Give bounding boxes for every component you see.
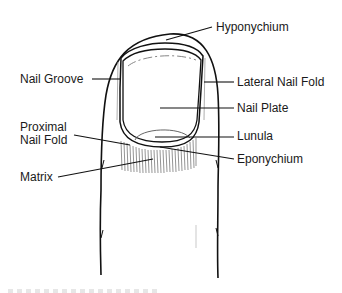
label-hyponychium: Hyponychium	[216, 21, 289, 34]
label-eponychium: Eponychium	[237, 153, 303, 166]
leader-lines	[58, 27, 234, 177]
label-matrix: Matrix	[20, 171, 53, 184]
leader-matrix	[58, 159, 153, 177]
label-lateral-nail-fold: Lateral Nail Fold	[237, 76, 324, 89]
label-nail-groove: Nail Groove	[20, 73, 83, 86]
fingernail-anatomy-diagram: Hyponychium Nail Groove Lateral Nail Fol…	[0, 0, 342, 293]
label-lunula: Lunula	[237, 130, 273, 143]
cropped-caption-text	[8, 289, 158, 293]
nail-plate	[123, 49, 201, 142]
label-proximal-nail-fold-line2: Nail Fold	[20, 134, 67, 147]
leader-eponychium	[160, 147, 234, 159]
label-nail-plate: Nail Plate	[237, 102, 288, 115]
lunula-shape	[135, 130, 190, 140]
